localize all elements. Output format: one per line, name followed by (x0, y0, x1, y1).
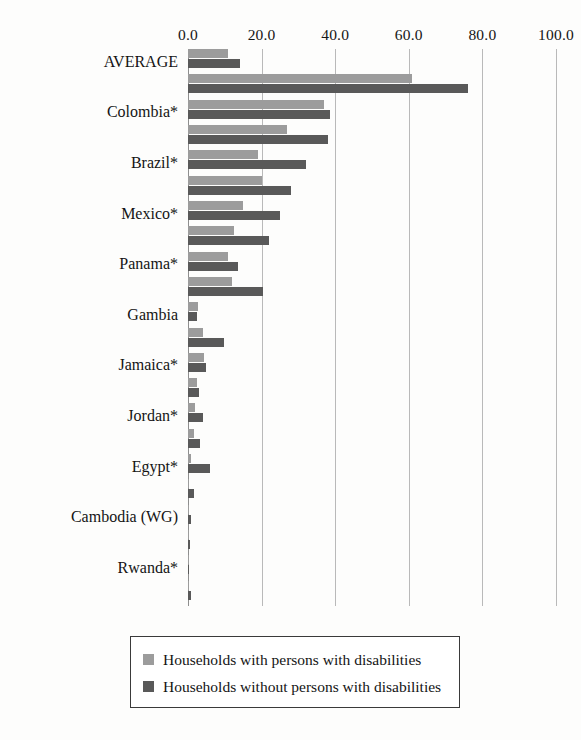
bar-series-0 (188, 581, 189, 590)
bar-group-row (188, 328, 556, 353)
bar-series-1 (188, 135, 328, 144)
bar-series-0 (188, 49, 228, 58)
chart-legend: Households with persons with disabilitie… (130, 636, 460, 708)
bar-series-0 (188, 277, 232, 286)
bar-group-row (188, 302, 556, 327)
x-tick-label: 80.0 (468, 26, 496, 44)
bar-series-1 (188, 262, 238, 271)
bar-group-row (188, 505, 556, 530)
bar-series-0 (188, 150, 258, 159)
category-label: AVERAGE (104, 53, 178, 71)
bar-series-0 (188, 100, 324, 109)
category-label: Gambia (127, 306, 178, 324)
bar-series-0 (188, 530, 189, 539)
x-tick-label: 40.0 (321, 26, 349, 44)
legend-label: Households with persons with disabilitie… (163, 651, 421, 669)
bar-series-0 (188, 454, 191, 463)
category-label: Mexico* (121, 205, 178, 223)
bar-group-row (188, 201, 556, 226)
category-label: Cambodia (WG) (71, 508, 178, 526)
bar-group-row (188, 454, 556, 479)
bar-series-0 (188, 201, 243, 210)
bar-series-0 (188, 555, 189, 564)
category-label: Panama* (119, 255, 178, 273)
plot-area (188, 49, 556, 606)
bar-series-0 (188, 252, 228, 261)
bar-series-1 (188, 515, 191, 524)
legend-label: Households without persons with disabili… (163, 678, 441, 696)
chart-page: 0.020.040.060.080.0100.0 AVERAGEColombia… (0, 0, 581, 740)
bar-series-1 (188, 489, 194, 498)
bar-series-1 (188, 84, 468, 93)
bar-series-0 (188, 353, 204, 362)
bar-series-0 (188, 226, 234, 235)
bar-group-row (188, 530, 556, 555)
bar-series-0 (188, 429, 194, 438)
bar-series-0 (188, 176, 262, 185)
bar-group-row (188, 277, 556, 302)
bar-group-row (188, 353, 556, 378)
bar-series-0 (188, 505, 189, 514)
bar-group-row (188, 176, 556, 201)
category-label: Egypt* (132, 458, 178, 476)
bar-series-1 (188, 388, 199, 397)
bar-series-0 (188, 302, 198, 311)
bar-group-row (188, 49, 556, 74)
bar-series-0 (188, 328, 203, 337)
bar-series-0 (188, 378, 197, 387)
legend-swatch-icon (143, 681, 154, 692)
bar-group-row (188, 581, 556, 606)
x-tick-label: 100.0 (538, 26, 574, 44)
bar-group-row (188, 100, 556, 125)
category-label: Brazil* (131, 154, 178, 172)
bar-series-1 (188, 338, 224, 347)
bar-series-1 (188, 464, 210, 473)
bar-series-1 (188, 413, 203, 422)
bar-series-1 (188, 59, 240, 68)
bar-group-row (188, 555, 556, 580)
y-axis-category-labels: AVERAGEColombia*Brazil*Mexico*Panama*Gam… (0, 49, 184, 606)
bar-series-1 (188, 312, 197, 321)
x-tick-label: 20.0 (248, 26, 276, 44)
bar-series-1 (188, 439, 200, 448)
bar-series-1 (188, 540, 190, 549)
bar-group-row (188, 150, 556, 175)
bar-series-1 (188, 211, 280, 220)
bar-series-1 (188, 591, 191, 600)
bar-series-1 (188, 236, 269, 245)
category-label: Rwanda* (118, 559, 178, 577)
bar-group-row (188, 479, 556, 504)
bar-group-row (188, 252, 556, 277)
gridline (556, 49, 557, 606)
category-label: Jamaica* (118, 356, 178, 374)
x-axis-tick-labels: 0.020.040.060.080.0100.0 (0, 26, 581, 48)
bar-group-row (188, 429, 556, 454)
bar-group-row (188, 378, 556, 403)
bar-series-0 (188, 125, 287, 134)
bar-series-1 (188, 110, 330, 119)
bar-series-1 (188, 363, 206, 372)
category-label: Jordan* (127, 407, 178, 425)
bar-series-0 (188, 403, 195, 412)
bar-group-row (188, 403, 556, 428)
bar-series-1 (188, 565, 189, 574)
bar-series-0 (188, 479, 189, 488)
bar-series-0 (188, 74, 412, 83)
category-label: Colombia* (107, 103, 178, 121)
legend-item[interactable]: Households without persons with disabili… (143, 673, 449, 700)
legend-item[interactable]: Households with persons with disabilitie… (143, 646, 449, 673)
bar-group-row (188, 226, 556, 251)
bar-group-row (188, 74, 556, 99)
bar-group-row (188, 125, 556, 150)
x-tick-label: 0.0 (178, 26, 198, 44)
bar-rows (188, 49, 556, 606)
legend-swatch-icon (143, 654, 154, 665)
bar-series-1 (188, 160, 306, 169)
x-tick-label: 60.0 (395, 26, 423, 44)
bar-series-1 (188, 186, 291, 195)
bar-series-1 (188, 287, 263, 296)
